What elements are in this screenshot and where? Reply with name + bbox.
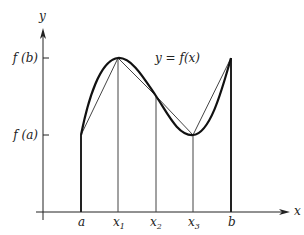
y-axis-label: y <box>38 9 46 23</box>
x-tick-label-x1-sub: 1 <box>120 222 125 231</box>
x-tick-label-x1: x1 <box>113 215 125 231</box>
x-tick-label-x3-sub: 3 <box>195 222 200 231</box>
x-tick-label-x2: x2 <box>150 215 162 231</box>
x-tick-label-b-main: b <box>228 215 236 229</box>
polygonal-approximation-diagram: y x f (b) f (a) y = f(x) a x1 x2 x3 b <box>0 0 304 235</box>
y-tick-label-fb: f (b) <box>12 51 39 65</box>
x-tick-label-a: a <box>78 215 85 229</box>
curve-label: y = f(x) <box>154 51 200 65</box>
x-tick-label-b: b <box>228 215 236 229</box>
x-tick-label-x3: x3 <box>188 215 200 231</box>
x-tick-label-a-main: a <box>78 215 85 229</box>
x-axis-label: x <box>294 204 301 218</box>
x-tick-label-x2-sub: 2 <box>156 222 162 231</box>
y-tick-label-fa: f (a) <box>12 128 38 142</box>
